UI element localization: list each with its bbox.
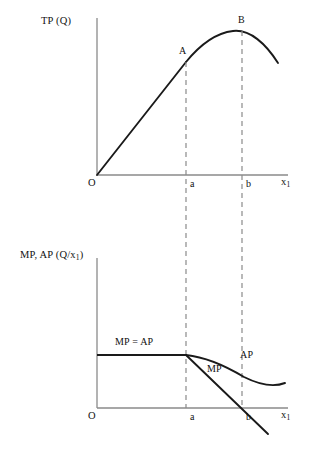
bottom-y-axis-label: MP, AP (Q/x1) bbox=[20, 250, 83, 262]
top-tick-label-a: a bbox=[190, 179, 195, 189]
top-origin-label: O bbox=[88, 178, 96, 189]
bottom-y-axis-label-tail: ) bbox=[80, 249, 84, 260]
point-label-a-upper: A bbox=[179, 46, 186, 56]
bottom-x-axis-label-sub: 1 bbox=[286, 413, 290, 422]
bottom-y-axis-label-base: MP, AP (Q/x bbox=[20, 249, 76, 260]
top-panel-curve bbox=[97, 31, 278, 175]
bottom-panel-curves bbox=[97, 355, 285, 434]
bottom-panel-axes bbox=[97, 258, 288, 408]
tp-concave-segment bbox=[186, 31, 278, 63]
point-label-b-upper: B bbox=[238, 15, 245, 25]
bottom-tick-label-b: b bbox=[246, 412, 251, 422]
figure-canvas bbox=[0, 0, 312, 454]
mp-curve-label: MP bbox=[207, 364, 222, 374]
top-x-axis-label-sub: 1 bbox=[286, 180, 290, 189]
bottom-origin-label: O bbox=[88, 411, 96, 422]
top-x-axis-label: x1 bbox=[281, 177, 290, 189]
tp-linear-segment bbox=[97, 62, 186, 175]
bottom-tick-label-a: a bbox=[190, 412, 195, 422]
top-tick-label-b: b bbox=[246, 179, 251, 189]
mp-equals-ap-label: MP = AP bbox=[115, 337, 153, 347]
production-function-figure: TP (Q) A B O a b x1 MP, AP (Q/x1) MP = A… bbox=[0, 0, 312, 454]
dashed-guides bbox=[186, 31, 242, 408]
ap-curve-label: AP bbox=[240, 350, 253, 360]
bottom-x-axis-label: x1 bbox=[281, 410, 290, 422]
top-y-axis-label: TP (Q) bbox=[41, 16, 71, 27]
